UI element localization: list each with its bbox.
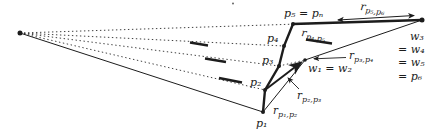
point-p1 [261,110,265,114]
ray-to-p4 [20,33,284,46]
ray-to-p3 [20,33,279,66]
geometry-figure: p₅ = pₙ rp₅,p₆ w₃ = w₄ = w₅ = p₆ p₄ rp₄,… [0,0,441,135]
pointer-arrow-r-p3-p4 [314,58,346,59]
label-p1: p₁ [256,117,267,130]
bold-dash-on-ray-p4 [190,43,208,46]
point-w1 [303,58,307,62]
label-r-p4-p5: rp₄,p₅ [300,26,327,44]
label-r-p3-p4: rp₃,p₄ [349,49,373,64]
label-r-p5-p6: rp₅,p₆ [360,0,387,17]
label-p3: p₃ [262,54,273,67]
line-source-to-p1 [20,33,263,112]
scan-speck [232,3,234,5]
label-p5-equals-pn: p₅ = pₙ [284,7,323,20]
source-point [18,31,23,36]
point-p3 [277,64,281,68]
point-p6 [420,18,425,23]
label-w1-equals-w2: w₁ = w₂ [308,62,352,75]
point-p2 [263,88,267,92]
ray-to-p2 [20,33,265,90]
label-w5: = w₅ [398,56,425,69]
point-p5 [291,22,295,26]
label-p4: p₄ [267,32,278,45]
point-p4 [282,44,286,48]
label-r-p1-p2: rp₁,p₂ [273,104,297,119]
label-r-p2-p3: rp₂,p₃ [297,89,321,104]
label-p2: p₂ [250,76,261,89]
label-w4: = w₄ [398,43,425,56]
figure-canvas: p₅ = pₙ rp₅,p₆ w₃ = w₄ = w₅ = p₆ p₄ rp₄,… [0,0,441,135]
label-p6: = p₆ [398,70,423,83]
pointer-arrow-r-p2-p3 [288,78,299,89]
label-w3: w₃ [410,30,424,43]
